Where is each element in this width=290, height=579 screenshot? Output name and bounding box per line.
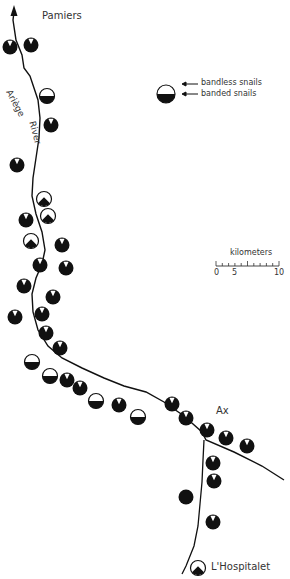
scale-tick-5: 5 xyxy=(232,268,237,277)
legend-arrows xyxy=(182,82,198,96)
snail-site-wedge xyxy=(8,310,23,325)
legend-symbol xyxy=(157,85,175,103)
snail-site-wedge xyxy=(44,118,59,133)
town-ax: Ax xyxy=(216,405,229,416)
scale-tick-0: 0 xyxy=(214,268,219,277)
snail-site-wedge xyxy=(46,290,61,305)
snail-site-wedge xyxy=(179,411,194,426)
snail-site-wedge xyxy=(10,158,25,173)
snail-site-wedge xyxy=(206,456,221,471)
snail-site-half xyxy=(89,394,104,409)
snail-site-wedge xyxy=(17,279,32,294)
snail-site-wedge xyxy=(112,398,127,413)
legend-bandless-label: bandless snails xyxy=(201,78,262,87)
snail-site-full xyxy=(179,490,194,505)
snail-site-mound xyxy=(41,209,56,224)
snail-site-wedge xyxy=(55,238,70,253)
snail-site-wedge xyxy=(165,397,180,412)
scale-tick-10: 10 xyxy=(274,268,284,277)
town-lhospitalet: L'Hospitalet xyxy=(211,561,270,572)
snail-site-wedge xyxy=(35,307,50,322)
snail-site-wedge xyxy=(3,40,18,55)
snail-site-mound xyxy=(24,234,39,249)
snail-site-half xyxy=(131,410,146,425)
snail-site-half xyxy=(43,369,58,384)
snail-site-wedge xyxy=(200,423,215,438)
snail-site-wedge xyxy=(207,474,222,489)
snail-site-wedge xyxy=(73,381,88,396)
snail-site-wedge xyxy=(60,373,75,388)
town-pamiers: Pamiers xyxy=(42,10,82,21)
scale-title: kilometers xyxy=(230,248,272,257)
snail-site-wedge xyxy=(206,515,221,530)
snail-distribution-map: Pamiers Ax L'Hospitalet Ariège River ban… xyxy=(0,0,290,579)
snail-site-wedge xyxy=(219,431,234,446)
legend-banded-label: banded snails xyxy=(201,89,256,98)
snail-site-half xyxy=(40,89,55,104)
snail-site-wedge xyxy=(53,341,68,356)
north-arrow-icon xyxy=(11,5,18,16)
snail-site-wedge xyxy=(240,439,255,454)
snail-site-wedge xyxy=(19,213,34,228)
snail-site-mound xyxy=(37,192,52,207)
snail-site-half xyxy=(25,355,40,370)
snail-site-wedge xyxy=(33,258,48,273)
snail-site-mound xyxy=(191,561,206,576)
snail-site-wedge xyxy=(39,326,54,341)
tributary-line xyxy=(182,440,204,574)
snail-site-half xyxy=(157,85,175,103)
snail-site-wedge xyxy=(24,38,39,53)
scale-ticks xyxy=(216,261,279,266)
snail-site-wedge xyxy=(59,261,74,276)
